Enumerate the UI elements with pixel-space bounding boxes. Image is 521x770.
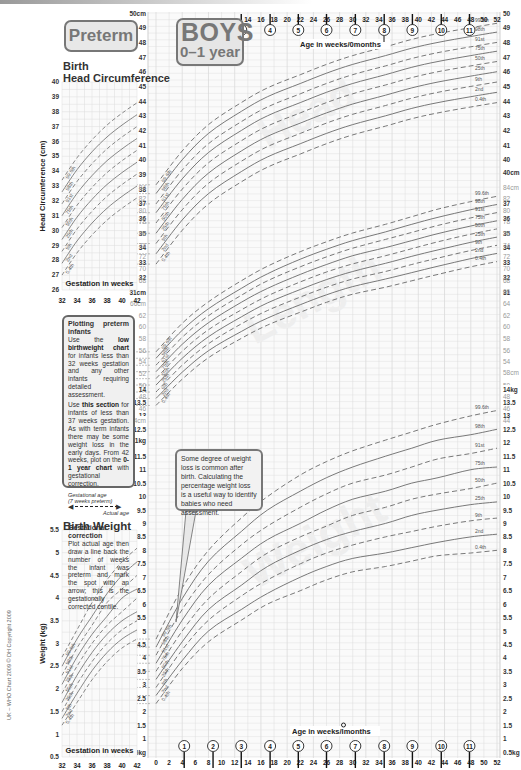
y-tick: 0.5 xyxy=(50,753,59,760)
unit-label: 40cm xyxy=(503,169,520,176)
y-tick: 33 xyxy=(52,182,60,189)
x-tick-bottom: 18 xyxy=(270,759,278,766)
y-tick: 27 xyxy=(52,271,60,278)
y-tick-left: 70 xyxy=(139,265,147,272)
arrow-right-icon: ▶ xyxy=(116,503,121,510)
info-heading-correction: Gestational correction xyxy=(68,524,129,540)
y-tick: 40 xyxy=(52,78,60,85)
y-tick-left: 9.5 xyxy=(137,507,146,514)
y-tick-right: 66 xyxy=(503,288,511,295)
centile-label: 50th xyxy=(475,55,485,61)
centile-label: 99.6th xyxy=(475,190,489,196)
preterm-head-ylabel: Head Circumference (cm) xyxy=(38,140,47,231)
unit-label: 14kg xyxy=(503,386,518,394)
age-axis-title-top: Age in weeks/0months xyxy=(300,40,381,49)
centile-label: 91st xyxy=(475,442,485,448)
y-tick: 1 xyxy=(55,731,59,738)
y-tick-right: 2.5 xyxy=(503,695,512,702)
centile-label: 2nd xyxy=(475,528,484,534)
y-tick-right: 1.5 xyxy=(503,722,512,729)
y-tick-left: 72 xyxy=(139,253,147,260)
unit-label: 50cm xyxy=(129,10,146,17)
y-tick: 37 xyxy=(52,123,60,130)
x-tick-bottom: 36 xyxy=(388,759,396,766)
x-tick-top: 28 xyxy=(336,16,344,23)
y-tick-right: 7.5 xyxy=(503,560,512,567)
y-tick: 31 xyxy=(52,212,60,219)
x-tick-bottom: 42 xyxy=(428,759,436,766)
y-tick-left: 42 xyxy=(139,127,147,134)
centile-label: 50th xyxy=(475,477,485,483)
y-tick-left: 84 xyxy=(139,184,147,191)
y-tick-right: 56 xyxy=(503,347,511,354)
y-tick-left: 44 xyxy=(139,98,147,105)
y-tick: 1.5 xyxy=(50,708,59,715)
y-tick-right: 78 xyxy=(503,218,511,225)
y-tick-right: 46 xyxy=(503,68,511,75)
centile-label: 0.4th xyxy=(475,96,486,102)
preterm-weight-xlabel: Gestation in weeks xyxy=(66,746,134,755)
x-tick-top: 46 xyxy=(454,16,462,23)
svg-text:5: 5 xyxy=(296,27,300,34)
svg-text:4: 4 xyxy=(268,743,272,750)
x-tick-top: 42 xyxy=(428,16,436,23)
x-tick-top: 20 xyxy=(284,16,292,23)
y-tick: 4 xyxy=(55,594,59,601)
preterm-weight-ylabel: Weight (kg) xyxy=(38,623,47,664)
y-tick-right: 68 xyxy=(503,277,511,284)
y-tick: 29 xyxy=(52,242,60,249)
svg-text:7: 7 xyxy=(354,27,358,34)
y-tick-left: 52 xyxy=(139,370,147,377)
y-tick-right: 47 xyxy=(503,54,511,61)
svg-text:5: 5 xyxy=(296,743,300,750)
unit-label: 0.5kg xyxy=(503,749,520,757)
y-tick-left: 60 xyxy=(139,323,147,330)
preterm-info-box: Plotting preterm infants Use the low bir… xyxy=(62,315,135,488)
x-tick-bottom: 50 xyxy=(480,759,488,766)
x-tick-top: 50 xyxy=(480,16,488,23)
y-tick-right: 3 xyxy=(503,681,507,688)
centile-label: 75th xyxy=(475,45,485,51)
y-tick-left: 2.5 xyxy=(137,695,146,702)
y-tick-right: 8.5 xyxy=(503,533,512,540)
x-tick: 36 xyxy=(88,297,96,304)
y-tick-right: 45 xyxy=(503,83,511,90)
x-tick: 40 xyxy=(118,297,126,304)
x-tick-top: 32 xyxy=(362,16,370,23)
diagram-arrow-icon xyxy=(70,506,118,507)
x-tick: 42 xyxy=(133,762,141,769)
y-tick-left: 40 xyxy=(139,156,147,163)
x-tick-bottom: 32 xyxy=(362,759,370,766)
x-tick: 36 xyxy=(88,762,96,769)
centile-label: 98th xyxy=(475,198,485,204)
y-tick-left: 1 xyxy=(142,735,146,742)
x-tick-bottom: 44 xyxy=(441,759,449,766)
unit-label: 58cm xyxy=(503,369,519,376)
x-tick: 42 xyxy=(133,297,141,304)
y-tick-left: 68 xyxy=(139,277,147,284)
x-tick-bottom: 14 xyxy=(244,759,252,766)
y-tick-right: 72 xyxy=(503,253,511,260)
y-tick-right: 76 xyxy=(503,230,511,237)
y-tick-left: 74 xyxy=(139,242,147,249)
y-tick: 3.5 xyxy=(50,617,59,624)
y-tick-left: 7.5 xyxy=(137,560,146,567)
y-tick-left: 3.5 xyxy=(137,668,146,675)
x-tick-bottom: 2 xyxy=(167,759,171,766)
x-tick: 38 xyxy=(103,297,111,304)
y-tick-left: 76 xyxy=(139,230,147,237)
y-tick-right: 4 xyxy=(503,654,507,661)
arrow-left-icon: ◀ xyxy=(68,503,73,510)
y-tick-left: 58 xyxy=(139,335,147,342)
y-tick-right: 62 xyxy=(503,312,511,319)
x-tick-bottom: 46 xyxy=(454,759,462,766)
y-tick-left: 43 xyxy=(139,112,147,119)
y-tick-right: 1 xyxy=(503,735,507,742)
y-tick: 32 xyxy=(52,197,60,204)
x-tick-bottom: 34 xyxy=(375,759,383,766)
y-tick-right: 60 xyxy=(503,323,511,330)
centile-label: 91st xyxy=(475,36,485,42)
centile-label: 75th xyxy=(475,214,485,220)
svg-text:9: 9 xyxy=(411,27,415,34)
y-tick-left: 5.5 xyxy=(137,614,146,621)
